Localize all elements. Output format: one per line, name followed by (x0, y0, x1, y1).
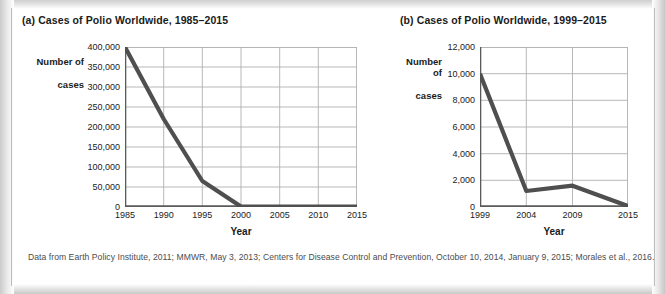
page-rule-left (11, 8, 12, 286)
x-tick-label: 2000 (231, 210, 251, 220)
page-edge-bottom (0, 284, 665, 294)
chart-b-title: (b) Cases of Polio Worldwide, 1999–2015 (400, 14, 607, 26)
figure-source-note: Data from Earth Policy Institute, 2011; … (28, 252, 640, 262)
y-tick-label: 250,000 (87, 102, 120, 112)
chart-panel-a: (a) Cases of Polio Worldwide, 1985–2015 … (18, 14, 363, 240)
x-tick-label: 2015 (618, 210, 638, 220)
chart-a-y-axis-title-line1: Number of (37, 56, 85, 67)
chart-a-y-axis-title-line2: cases (58, 79, 84, 90)
chart-a-title: (a) Cases of Polio Worldwide, 1985–2015 (22, 14, 228, 26)
x-tick-label: 1995 (192, 210, 212, 220)
chart-a-svg (125, 47, 357, 207)
page-edge-right (652, 0, 665, 294)
chart-b-y-axis-title-line1: Number of (406, 56, 442, 79)
chart-panel-b: (b) Cases of Polio Worldwide, 1999–2015 … (398, 14, 648, 240)
x-tick-label: 1985 (115, 210, 135, 220)
y-tick-label: 2,000 (452, 175, 475, 185)
x-tick-label: 2015 (347, 210, 367, 220)
chart-b-plot-area: 02,0004,0006,0008,00010,00012,000 199920… (480, 47, 628, 207)
x-tick-label: 2010 (308, 210, 328, 220)
chart-a-gridlines (125, 47, 357, 207)
chart-b-y-axis-title: Number of cases (398, 44, 442, 102)
y-tick-label: 350,000 (87, 62, 120, 72)
page-edge-top (0, 0, 665, 9)
y-tick-label: 150,000 (87, 142, 120, 152)
chart-b-x-axis-title: Year (480, 226, 628, 237)
y-tick-label: 12,000 (447, 42, 475, 52)
x-tick-label: 2004 (516, 210, 536, 220)
figure-card: (a) Cases of Polio Worldwide, 1985–2015 … (0, 0, 665, 294)
chart-a-y-axis-title: Number of cases (18, 44, 84, 90)
x-tick-label: 1990 (154, 210, 174, 220)
y-tick-label: 400,000 (87, 42, 120, 52)
y-tick-label: 10,000 (447, 69, 475, 79)
chart-b-y-axis-title-line2: cases (416, 90, 442, 101)
x-tick-label: 1999 (470, 210, 490, 220)
y-tick-label: 100,000 (87, 162, 120, 172)
y-tick-label: 8,000 (452, 95, 475, 105)
y-tick-label: 50,000 (92, 182, 120, 192)
chart-a-x-axis-title: Year (125, 226, 357, 237)
page-edge-left (0, 0, 14, 294)
x-tick-label: 2005 (270, 210, 290, 220)
chart-a-plot-area: 050,000100,000150,000200,000250,000300,0… (125, 47, 357, 207)
page-rule-right (654, 8, 655, 286)
chart-b-data-line (480, 74, 628, 206)
y-tick-label: 200,000 (87, 122, 120, 132)
y-tick-label: 300,000 (87, 82, 120, 92)
y-tick-label: 4,000 (452, 149, 475, 159)
y-tick-label: 6,000 (452, 122, 475, 132)
chart-b-svg (480, 47, 628, 207)
x-tick-label: 2009 (562, 210, 582, 220)
